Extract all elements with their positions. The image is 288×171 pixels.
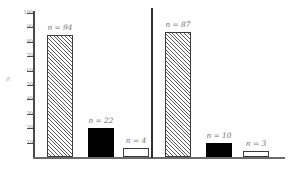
bar — [165, 32, 191, 157]
bar-count-label: n = 94 — [36, 24, 84, 32]
y-tick-mark — [27, 42, 33, 43]
bar — [123, 148, 149, 157]
x-axis-baseline — [33, 157, 285, 159]
bar-count-label: n = 10 — [195, 132, 243, 140]
bar-count-label: n = 3 — [232, 140, 280, 148]
y-tick-mark — [27, 114, 33, 115]
bar — [206, 143, 232, 157]
y-tick-mark — [27, 85, 33, 86]
bar — [47, 35, 73, 157]
bar-chart: 100908070605040302010 % n = 94n = 22n = … — [0, 0, 288, 171]
y-tick-mark — [27, 128, 33, 129]
bar-count-label: n = 22 — [77, 117, 125, 125]
y-tick-mark — [27, 27, 33, 28]
y-tick-mark — [27, 71, 33, 72]
bar — [88, 128, 114, 157]
bar-count-label: n = 87 — [154, 21, 202, 29]
y-tick-mark — [27, 56, 33, 57]
y-tick-mark — [27, 143, 33, 144]
bar-count-label: n = 4 — [112, 137, 160, 145]
y-axis-line — [33, 11, 35, 159]
y-tick-mark — [27, 13, 33, 14]
y-tick-mark — [27, 99, 33, 100]
bar — [243, 151, 269, 157]
panel-divider — [151, 8, 153, 158]
y-axis-title: % — [5, 65, 11, 93]
